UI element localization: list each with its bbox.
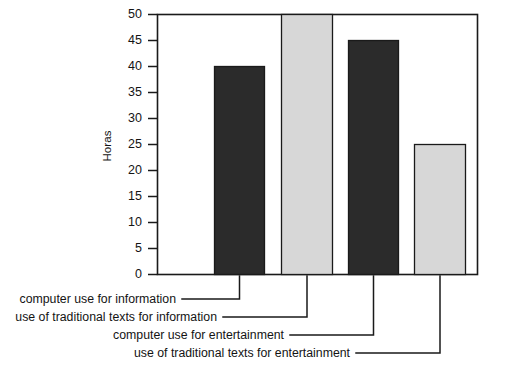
y-tick-label-5: 5	[108, 242, 142, 255]
callout-label-use-of-traditional-texts-for-entertainment: use of traditional texts for entertainme…	[134, 347, 350, 359]
y-tick-label-45: 45	[108, 34, 142, 47]
y-tick-label-50: 50	[108, 8, 142, 21]
leader-line-1	[182, 276, 240, 299]
y-tick-label-25: 25	[108, 138, 142, 151]
callout-label-computer-use-for-entertainment: computer use for entertainment	[113, 329, 284, 341]
bar-computer-use-for-information[interactable]	[215, 67, 265, 275]
y-axis-ticks	[148, 15, 158, 275]
y-tick-label-40: 40	[108, 60, 142, 73]
y-tick-label-15: 15	[108, 190, 142, 203]
y-tick-label-30: 30	[108, 112, 142, 125]
bar-chart: Horas 0 5 10 15 20 25 30 35 40 45 50 com…	[0, 0, 505, 376]
y-tick-label-10: 10	[108, 216, 142, 229]
callout-label-use-of-traditional-texts-for-information: use of traditional texts for information	[15, 311, 217, 323]
callout-label-computer-use-for-information: computer use for information	[19, 293, 176, 305]
y-tick-label-20: 20	[108, 164, 142, 177]
y-tick-label-35: 35	[108, 86, 142, 99]
leader-line-2	[223, 276, 307, 317]
bar-use-of-traditional-texts-for-entertainment[interactable]	[415, 145, 466, 275]
bar-use-of-traditional-texts-for-information[interactable]	[282, 15, 333, 275]
bar-computer-use-for-entertainment[interactable]	[349, 41, 399, 275]
leader-line-3	[290, 276, 374, 335]
y-tick-label-0: 0	[108, 268, 142, 281]
leader-line-4	[356, 276, 440, 353]
